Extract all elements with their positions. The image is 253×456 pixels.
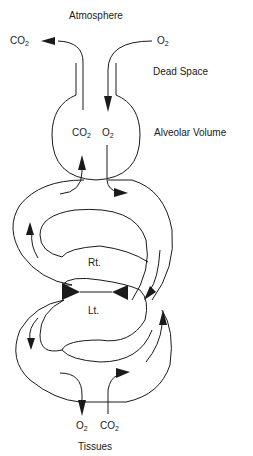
right-heart [62, 278, 140, 290]
arrowhead-icon [26, 222, 34, 235]
arrowhead-icon [78, 400, 86, 416]
left-heart-label: Lt. [88, 305, 99, 316]
right-heart-label: Rt. [88, 257, 101, 268]
tissues-label: Tissues [78, 441, 112, 452]
arrowhead-icon [114, 188, 128, 197]
gas-co2-alveolar: CO2 [72, 127, 91, 139]
dead-space-label: Dead Space [153, 66, 208, 77]
arrowhead-icon [144, 286, 156, 300]
gas-o2-alveolar: O2 [102, 127, 114, 139]
gas-o2-tissues: O2 [76, 420, 88, 432]
o2-inhale-arrow [108, 41, 152, 100]
gas-o2-atmosphere: O2 [157, 35, 169, 47]
co2-exhale-arrow [58, 41, 83, 110]
diagram-canvas [0, 0, 253, 456]
arrowhead-icon [104, 96, 112, 112]
gas-co2-atmosphere: CO2 [10, 35, 29, 47]
pulmonary-loop [13, 180, 173, 300]
alveolar-volume-label: Alveolar Volume [154, 127, 226, 138]
arrowhead-icon [41, 37, 55, 45]
atmosphere-label: Atmosphere [69, 10, 123, 21]
gas-co2-tissues: CO2 [100, 420, 119, 432]
arrowhead-icon [78, 155, 86, 170]
arrowhead-icon [27, 338, 35, 350]
alveolus [52, 95, 140, 180]
arrowhead-icon [116, 368, 130, 378]
